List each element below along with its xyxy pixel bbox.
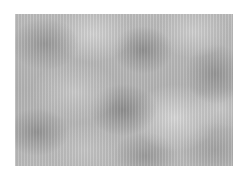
- cloud-noise-texture: [15, 14, 233, 166]
- image-canvas: [0, 0, 248, 179]
- scanline-overlay: [15, 14, 233, 166]
